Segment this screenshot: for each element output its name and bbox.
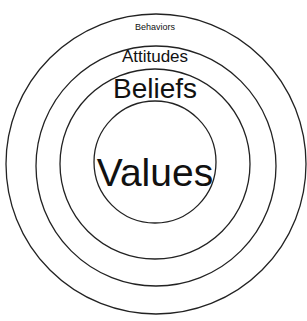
behaviors-label: Behaviors <box>0 23 307 32</box>
attitudes-label: Attitudes <box>0 48 307 65</box>
values-label: Values <box>0 153 307 192</box>
beliefs-label: Beliefs <box>0 75 307 103</box>
